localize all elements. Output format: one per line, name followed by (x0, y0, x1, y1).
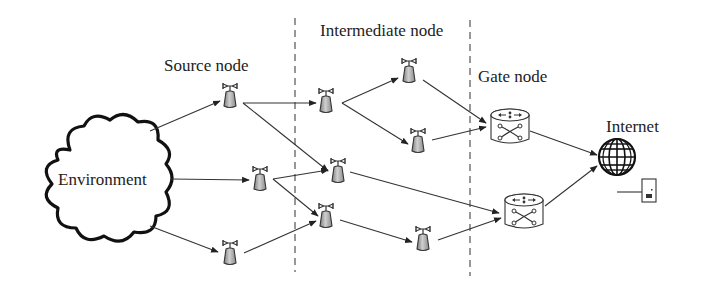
gate-node-router-2 (505, 194, 543, 228)
gate-node-label: Gate node (478, 67, 547, 87)
intermediate-node-label: Intermediate node (320, 21, 443, 41)
intermediate-node-tower-3 (411, 128, 425, 153)
source-node-tower-2 (253, 166, 267, 191)
source-node-tower-3 (223, 240, 237, 265)
intermediate-node-tower-1 (319, 88, 333, 113)
network-diagram (0, 0, 701, 294)
environment-label: Environment (58, 170, 147, 190)
intermediate-node-tower-5 (319, 203, 333, 228)
gate-node-router-1 (491, 109, 529, 143)
source-node-label: Source node (164, 56, 249, 76)
intermediate-node-tower-6 (416, 226, 430, 251)
intermediate-node-tower-2 (402, 58, 416, 83)
internet-globe-icon (599, 139, 635, 175)
internet-label: Internet (606, 117, 659, 137)
device-icon (617, 179, 656, 202)
intermediate-node-tower-4 (331, 158, 345, 183)
source-node-tower-1 (223, 83, 237, 108)
